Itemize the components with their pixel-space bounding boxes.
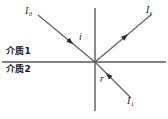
ray-label-incident-base: I: [25, 5, 28, 16]
medium-2-label: 介质2: [6, 65, 31, 74]
medium-1-label: 介质1: [6, 47, 31, 56]
ray-line-incident: [38, 15, 95, 62]
optics-ray-diagram: I0 Ir I1 i r 介质1 介质2: [0, 0, 168, 119]
ray-label-refracted: I1: [127, 96, 134, 106]
ray-label-reflected-subscript: r: [150, 9, 153, 16]
angle-of-refraction-label: r: [100, 75, 104, 85]
ray-label-incident-subscript: 0: [29, 10, 32, 17]
ray-label-incident: I0: [25, 6, 32, 16]
ray-label-refracted-base: I: [127, 95, 130, 106]
diagram-canvas: [0, 0, 168, 119]
ray-label-refracted-subscript: 1: [131, 100, 134, 107]
angle-of-incidence-label: i: [79, 33, 82, 43]
ray-label-reflected-base: I: [146, 4, 149, 15]
ray-label-reflected: Ir: [146, 5, 152, 15]
